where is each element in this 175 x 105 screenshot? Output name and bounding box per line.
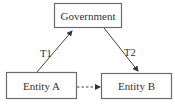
node-entity-a: Entity A bbox=[7, 73, 77, 99]
node-government: Government bbox=[55, 4, 122, 28]
edge-t1: T1 bbox=[37, 31, 72, 72]
edge-t2-label: T2 bbox=[124, 47, 136, 58]
government-label: Government bbox=[61, 10, 116, 22]
node-entity-b: Entity B bbox=[102, 74, 172, 99]
edge-t1-label: T1 bbox=[40, 48, 52, 59]
edge-t2: T2 bbox=[104, 28, 138, 71]
diagram-canvas: Government Entity A Entity B T1 T2 bbox=[0, 0, 175, 105]
entity-a-label: Entity A bbox=[23, 80, 60, 92]
entity-b-label: Entity B bbox=[118, 80, 155, 92]
